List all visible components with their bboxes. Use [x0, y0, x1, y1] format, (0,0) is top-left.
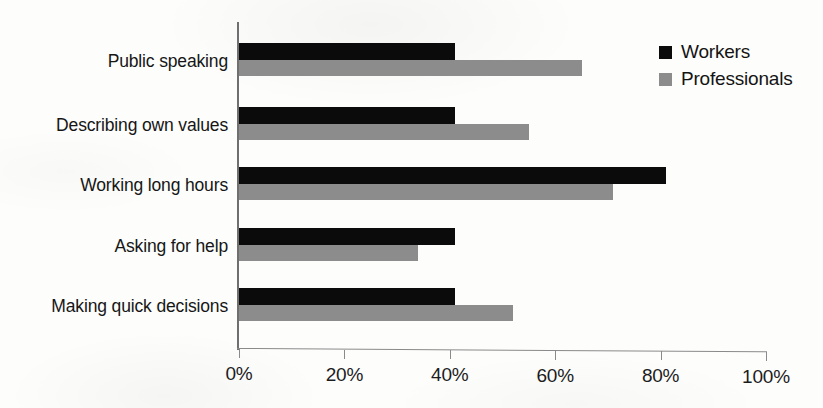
x-axis-line: [237, 348, 767, 352]
bar-workers: [239, 107, 455, 124]
x-axis-tick: [239, 349, 240, 358]
x-axis-tick-label: 80%: [642, 365, 679, 387]
bar-chart: Public speakingDescribing own valuesWork…: [0, 0, 823, 408]
bar-professionals: [239, 305, 513, 321]
bar-workers: [239, 43, 455, 60]
bar-professionals: [239, 60, 582, 76]
x-axis-tick: [661, 351, 662, 360]
legend-label-workers: Workers: [681, 41, 750, 63]
x-axis-tick-label: 40%: [431, 364, 468, 386]
bar-workers: [239, 167, 666, 184]
category-label: Making quick decisions: [0, 296, 228, 317]
legend-item-professionals: Professionals: [659, 67, 792, 91]
x-axis-tick-label: 60%: [536, 365, 573, 387]
bar-professionals: [239, 184, 613, 200]
x-axis-tick: [344, 350, 345, 359]
x-axis-tick: [766, 352, 767, 361]
legend-label-professionals: Professionals: [681, 68, 792, 90]
bar-professionals: [239, 245, 418, 261]
bar-professionals: [239, 124, 529, 140]
category-label: Describing own values: [0, 115, 228, 136]
legend-swatch-workers-icon: [659, 46, 672, 59]
x-axis-tick-label: 100%: [742, 366, 790, 388]
category-label: Working long hours: [0, 175, 228, 196]
bar-workers: [239, 288, 455, 305]
x-axis-tick-label: 0%: [225, 363, 252, 385]
x-axis-tick: [450, 350, 451, 359]
legend-item-workers: Workers: [659, 40, 792, 64]
bar-workers: [239, 228, 455, 245]
legend: Workers Professionals: [659, 40, 792, 94]
x-axis-tick: [555, 351, 556, 360]
category-label: Asking for help: [0, 236, 228, 257]
legend-swatch-professionals-icon: [659, 73, 672, 86]
x-axis-tick-label: 20%: [326, 364, 363, 386]
category-label: Public speaking: [0, 51, 228, 72]
